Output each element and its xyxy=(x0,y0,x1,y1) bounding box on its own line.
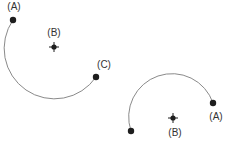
left-arc-diagram: (A) (B) (C) xyxy=(4,1,111,99)
point-a-label: (A) xyxy=(7,1,20,12)
right-arc-diagram: (B) (A) xyxy=(128,74,223,138)
diagram-canvas: (A) (B) (C) (B) (A) xyxy=(0,0,229,151)
point-a-dot xyxy=(10,17,16,23)
center-b-crosshair-icon xyxy=(168,113,178,123)
point-c-dot xyxy=(93,74,99,80)
point-c-label: (C) xyxy=(97,59,111,70)
point-a-label: (A) xyxy=(209,111,222,122)
center-b-crosshair-icon xyxy=(49,42,59,52)
start-point-dot xyxy=(128,128,134,134)
arc-right xyxy=(129,74,213,131)
center-b-label: (B) xyxy=(47,27,60,38)
point-a-dot xyxy=(210,100,216,106)
center-b-label: (B) xyxy=(168,127,181,138)
